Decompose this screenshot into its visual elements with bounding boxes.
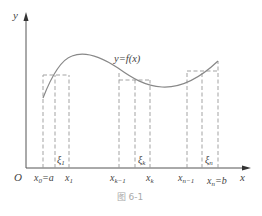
axes bbox=[24, 12, 252, 171]
x-tick-labels: x0=a x1 xk−1 xk xn−1 xn=b bbox=[33, 172, 227, 188]
label-xik: ξk bbox=[138, 154, 146, 167]
partition-rectangles bbox=[43, 61, 218, 168]
x-axis-label: x bbox=[239, 171, 245, 183]
y-axis-arrow-icon bbox=[24, 12, 29, 21]
tick-x0: x0=a bbox=[33, 172, 54, 185]
y-axis-label: y bbox=[12, 9, 18, 21]
label-xi1: ξ1 bbox=[57, 154, 65, 167]
origin-label: O bbox=[14, 171, 22, 183]
label-xin: ξn bbox=[205, 154, 213, 167]
x-axis-arrow-icon bbox=[242, 166, 251, 171]
tick-xn-1: xn−1 bbox=[177, 172, 194, 185]
rect-n bbox=[187, 61, 218, 168]
riemann-sum-figure: y x O y=f(x) x0=a x1 xk−1 xk xn−1 xn=b bbox=[0, 0, 262, 216]
tick-xn: xn=b bbox=[206, 175, 227, 188]
tick-xk-1: xk−1 bbox=[109, 172, 126, 185]
curve-label: y=f(x) bbox=[113, 53, 141, 65]
figure-caption: 图 6-1 bbox=[117, 192, 144, 202]
tick-x1: x1 bbox=[64, 172, 73, 185]
rect-k bbox=[119, 71, 150, 168]
tick-xk: xk bbox=[145, 172, 154, 185]
